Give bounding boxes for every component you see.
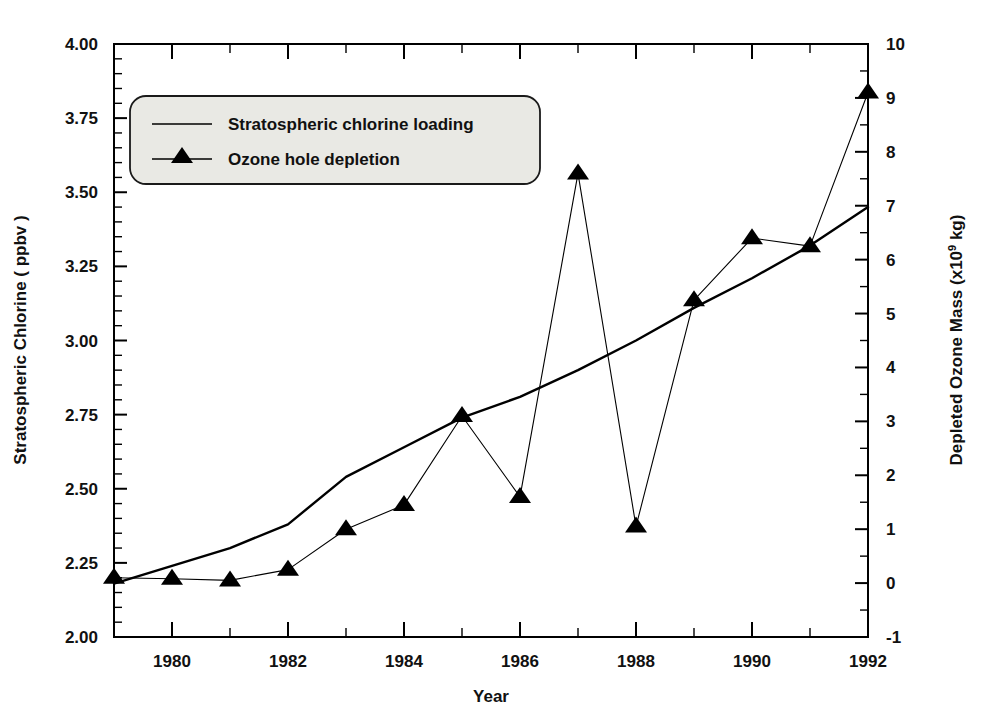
chart-figure: 2.002.252.502.753.003.253.503.754.00 -10… xyxy=(0,0,991,727)
right-tick-label: 3 xyxy=(886,412,895,431)
left-tick-label: 3.25 xyxy=(65,257,98,276)
right-tick-label: 5 xyxy=(886,305,895,324)
legend-box xyxy=(130,96,540,184)
left-tick-label: 2.50 xyxy=(65,480,98,499)
x-tick-label: 1990 xyxy=(733,652,771,671)
right-tick-label: 8 xyxy=(886,143,895,162)
y-axis-title: Stratospheric Chlorine ( ppbv ) xyxy=(11,215,30,464)
right-tick-label: 6 xyxy=(886,251,895,270)
x-tick-label: 1988 xyxy=(617,652,655,671)
x-tick-label: 1986 xyxy=(501,652,539,671)
x-tick-label: 1984 xyxy=(385,652,423,671)
right-tick-label: -1 xyxy=(886,628,901,647)
y2-title-suffix: kg) xyxy=(947,215,966,245)
right-tick-label: 2 xyxy=(886,466,895,485)
right-tick-label: 1 xyxy=(886,520,895,539)
right-tick-label: 10 xyxy=(886,35,905,54)
y2-axis-title-group: Depleted Ozone Mass (x109 kg) xyxy=(946,215,966,466)
left-tick-label: 3.50 xyxy=(65,183,98,202)
left-tick-label: 2.75 xyxy=(65,406,98,425)
left-tick-label: 2.25 xyxy=(65,554,98,573)
ozone-chlorine-line-chart: 2.002.252.502.753.003.253.503.754.00 -10… xyxy=(0,0,991,727)
legend-label-ozone: Ozone hole depletion xyxy=(228,150,400,169)
x-tick-label: 1980 xyxy=(153,652,191,671)
right-tick-label: 4 xyxy=(886,358,896,377)
right-tick-label: 7 xyxy=(886,197,895,216)
left-tick-label: 3.00 xyxy=(65,332,98,351)
right-tick-label: 0 xyxy=(886,574,895,593)
y2-title-prefix: Depleted Ozone Mass (x10 xyxy=(947,251,966,465)
x-axis-title: Year xyxy=(473,687,509,706)
x-tick-label: 1992 xyxy=(849,652,887,671)
right-tick-label: 9 xyxy=(886,89,895,108)
legend[interactable]: Stratospheric chlorine loading Ozone hol… xyxy=(130,96,540,184)
y2-axis-title: Depleted Ozone Mass (x109 kg) xyxy=(946,215,966,466)
left-tick-label: 4.00 xyxy=(65,35,98,54)
x-tick-label: 1982 xyxy=(269,652,307,671)
left-tick-label: 3.75 xyxy=(65,109,98,128)
left-axis-tick-labels: 2.002.252.502.753.003.253.503.754.00 xyxy=(65,35,98,647)
left-tick-label: 2.00 xyxy=(65,628,98,647)
legend-label-chlorine: Stratospheric chlorine loading xyxy=(228,115,474,134)
